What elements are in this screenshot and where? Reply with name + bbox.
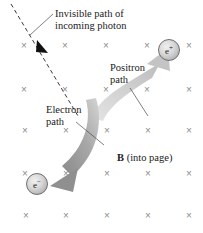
field-into-page-mark: ×: [145, 126, 151, 136]
field-into-page-mark: ×: [63, 211, 69, 221]
positron-particle: e+: [158, 39, 180, 61]
photon-leader-line: [30, 14, 53, 35]
field-into-page-mark: ×: [21, 85, 27, 95]
field-into-page-mark: ×: [104, 211, 110, 221]
field-into-page-mark: ×: [144, 41, 150, 51]
field-into-page-mark: ×: [186, 211, 192, 221]
field-into-page-mark: ×: [103, 85, 109, 95]
photon-arrowhead: [36, 40, 48, 53]
field-into-page-mark: ×: [186, 85, 192, 95]
field-direction-text: (into page): [124, 152, 172, 163]
magnetic-field-label: B (into page): [117, 152, 172, 164]
field-into-page-mark: ×: [23, 211, 29, 221]
positron-symbol: e+: [165, 45, 173, 56]
photon-path-label: Invisible path of incoming photon: [55, 8, 126, 32]
field-into-page-mark: ×: [186, 126, 192, 136]
electron-path-label: Electron path: [46, 104, 82, 128]
field-into-page-mark: ×: [22, 126, 28, 136]
field-into-page-mark: ×: [62, 41, 68, 51]
field-into-page-mark: ×: [104, 169, 110, 179]
field-into-page-mark: ×: [103, 41, 109, 51]
field-into-page-mark: ×: [144, 85, 150, 95]
field-into-page-mark: ×: [145, 211, 151, 221]
electron-particle: e−: [26, 173, 48, 195]
electron-symbol: e−: [33, 179, 41, 190]
pair-production-figure: ××××××××××××××××××××××××× Invisible path…: [0, 0, 203, 233]
field-into-page-mark: ×: [145, 169, 151, 179]
field-into-page-mark: ×: [21, 41, 27, 51]
positron-path-label: Positron path: [110, 62, 145, 86]
field-into-page-mark: ×: [186, 41, 192, 51]
figure-vector-layer: [0, 0, 203, 233]
field-symbol: B: [117, 152, 124, 163]
field-into-page-mark: ×: [104, 126, 110, 136]
field-into-page-mark: ×: [186, 169, 192, 179]
field-into-page-mark: ×: [62, 85, 68, 95]
field-into-page-mark: ×: [63, 169, 69, 179]
